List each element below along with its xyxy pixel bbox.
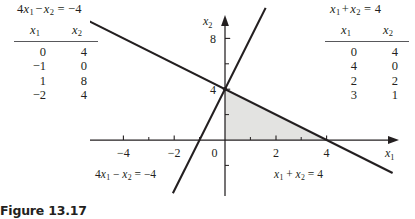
graph-label1-rhs: −4 (144, 168, 156, 180)
graph-label2-rhs: 4 (317, 168, 323, 180)
graph-label1-var2-sub: 2 (127, 173, 131, 182)
left-equation-equals: = (58, 2, 65, 16)
graph-label2-plus: + (286, 168, 293, 180)
figure-caption: Figure 13.17 (0, 203, 87, 218)
left-table-body: 0 4 −1 0 1 8 −2 4 (14, 42, 98, 102)
x-tick-label-4: 4 (324, 146, 330, 160)
intersection-point-marker (223, 87, 227, 91)
x-tick-label--4: −4 (117, 146, 130, 160)
left-header-x1-sub: 1 (36, 28, 41, 38)
left-equation-var2-sub: 2 (49, 7, 54, 17)
line-x1-plus-x2-equals-4 (90, 18, 393, 173)
graph-label2-var1-sub: 1 (279, 173, 283, 182)
left-cell-x1: 0 (14, 42, 56, 60)
left-header-x1-var: x (30, 23, 36, 37)
graph-label2-equals: = (308, 168, 315, 180)
x-tick-label-2: 2 (273, 146, 279, 160)
table-row: −2 4 (14, 88, 98, 102)
graph-label-line-4x1-minus-x2: 4x1 − x2 = −4 (95, 168, 156, 182)
graph-label1-var1-sub: 1 (106, 173, 110, 182)
left-table-head: x1 x2 (14, 22, 98, 42)
graph-label1-minus: − (113, 168, 120, 180)
left-equation-minus: − (35, 2, 42, 16)
y-axis-arrowhead (221, 15, 229, 26)
left-cell-x1: −2 (14, 88, 56, 102)
table-row: 0 4 (14, 42, 98, 60)
graph-label2-var2: x (296, 168, 301, 180)
y-tick-label-8: 8 (210, 32, 216, 46)
figure-root: 4x1 − x2 = −4 x1 x2 0 4 −1 0 1 8 −2 (0, 0, 415, 219)
left-header-x2-sub: 2 (78, 28, 83, 38)
left-cell-x1: −1 (14, 59, 56, 73)
left-cell-x1: 1 (14, 74, 56, 88)
x-axis-label: x1 (384, 146, 394, 162)
left-header-x2-var: x (72, 23, 78, 37)
graph-label1-equals: = (135, 168, 142, 180)
left-value-table: x1 x2 0 4 −1 0 1 8 −2 4 (14, 22, 98, 102)
x-axis-arrowhead (388, 136, 399, 144)
left-table-header-x1: x1 (14, 22, 56, 42)
graph-label-line-x1-plus-x2: x1 + x2 = 4 (274, 168, 323, 182)
y-tick-label-4: 4 (210, 83, 216, 97)
x-tick-label--2: −2 (168, 146, 181, 160)
left-equation-rhs: −4 (68, 2, 82, 16)
line-4x1-minus-x2-equals-minus4 (173, 8, 266, 193)
left-table-header-row: x1 x2 (14, 22, 98, 42)
x-tick-label-0: 0 (212, 146, 218, 160)
left-equation: 4x1 − x2 = −4 (17, 2, 82, 17)
table-row: 1 8 (14, 74, 98, 88)
left-equation-var1-sub: 1 (29, 7, 34, 17)
y-axis-label: x2 (202, 14, 212, 30)
graph-label2-var2-sub: 2 (301, 173, 305, 182)
table-row: −1 0 (14, 59, 98, 73)
